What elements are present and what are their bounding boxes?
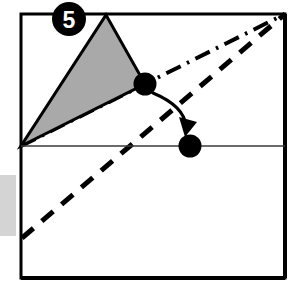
motion-arrowhead — [179, 117, 197, 137]
figure-canvas: 5 — [0, 0, 293, 286]
shaded-triangle — [21, 15, 145, 146]
source-dot — [134, 73, 157, 96]
step-number-label: 5 — [63, 7, 76, 33]
left-gray-bar — [0, 175, 16, 236]
target-dot — [179, 135, 202, 158]
figure-container: 5 — [0, 0, 293, 286]
